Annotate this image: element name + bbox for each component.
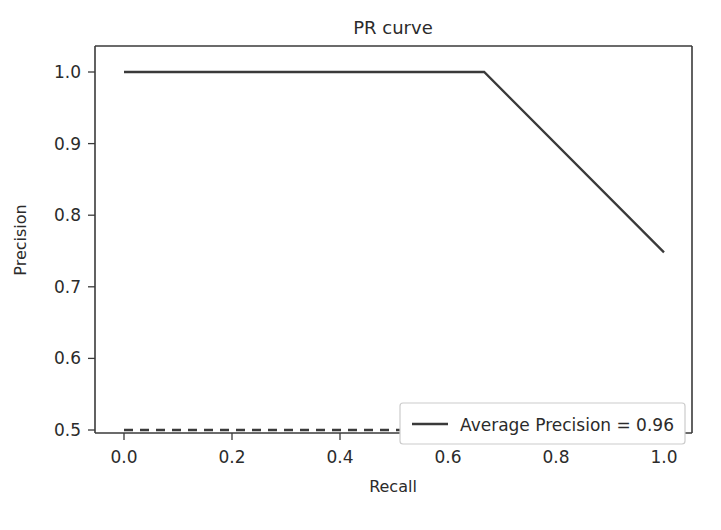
legend[interactable]: Average Precision = 0.96 xyxy=(400,403,685,444)
y-tick-label: 0.7 xyxy=(54,277,81,297)
x-tick-label: 0.8 xyxy=(542,447,569,467)
x-tick-label: 1.0 xyxy=(650,447,677,467)
x-tick-label: 0.2 xyxy=(218,447,245,467)
chart-title: PR curve xyxy=(353,17,433,38)
y-tick-label: 0.9 xyxy=(54,134,81,154)
y-tick-label: 0.6 xyxy=(54,348,81,368)
x-tick-label: 0.6 xyxy=(434,447,461,467)
y-tick-label: 1.0 xyxy=(54,62,81,82)
x-tick-label: 0.4 xyxy=(326,447,353,467)
y-axis-title: Precision xyxy=(11,204,30,275)
figure-canvas: PR curve 1.0 0.9 0.8 0.7 0.6 0.5 Precisi… xyxy=(0,0,721,530)
pr-curve-chart: PR curve 1.0 0.9 0.8 0.7 0.6 0.5 Precisi… xyxy=(0,0,721,530)
y-axis-ticks xyxy=(88,72,95,430)
x-axis-title: Recall xyxy=(369,477,417,496)
legend-entry-label: Average Precision = 0.96 xyxy=(460,415,674,435)
x-axis-tick-labels: 0.0 0.2 0.4 0.6 0.8 1.0 xyxy=(110,447,677,467)
y-tick-label: 0.5 xyxy=(54,420,81,440)
x-tick-label: 0.0 xyxy=(110,447,137,467)
y-tick-label: 0.8 xyxy=(54,205,81,225)
y-axis-tick-labels: 1.0 0.9 0.8 0.7 0.6 0.5 xyxy=(54,62,81,440)
plot-area-background xyxy=(95,46,692,433)
